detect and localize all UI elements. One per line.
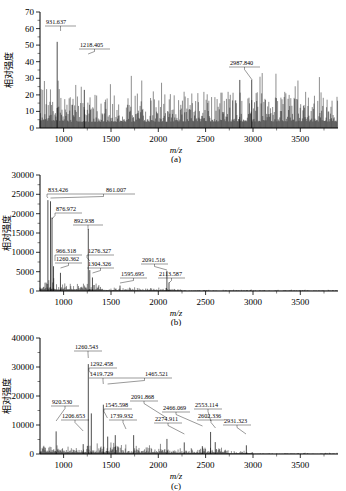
peak-label: 1260.362	[56, 255, 79, 262]
y-tick-label: 30000	[12, 362, 35, 372]
peak-label: 1419.729	[90, 370, 113, 377]
spectrum-trace-a	[40, 42, 338, 128]
peak-label: 1595.695	[121, 270, 144, 277]
spectrum-trace-b	[40, 200, 338, 291]
x-tick-label: 2500	[197, 134, 216, 144]
panel-caption-a: (a)	[171, 154, 181, 163]
peak-label: 1260.543	[75, 343, 98, 350]
x-tick-label: 2500	[197, 297, 216, 307]
y-axis-title-c: 相对强度	[1, 378, 12, 414]
spectrum-trace-c	[40, 364, 338, 454]
y-tick-label: 30	[25, 73, 35, 83]
peak-label: 1292.458	[90, 360, 113, 367]
y-tick-label: 20	[25, 90, 35, 100]
panel-a-plot: 0 10 20 30 40 50 60 70 相对强度	[0, 0, 346, 163]
peak-label: 1276.327	[88, 247, 111, 254]
peak-label: 2553.114	[195, 401, 218, 408]
peak-label: 966.318	[56, 247, 76, 254]
y-tick-label: 40	[25, 57, 35, 67]
y-tick-label: 10000	[12, 247, 35, 257]
x-tick-label: 2000	[149, 297, 168, 307]
peak-label: 892.938	[74, 217, 94, 224]
peak-label: 1739.932	[110, 412, 133, 419]
peak-label: 2091.516	[142, 256, 165, 263]
y-tick-label: 0	[30, 123, 35, 133]
y-tick-label: 10	[25, 106, 35, 116]
peak-label: 861.007	[106, 186, 126, 193]
x-tick-label: 1500	[102, 134, 121, 144]
x-tick-label: 3000	[244, 134, 263, 144]
x-tick-label: 1500	[102, 460, 121, 470]
peak-label: 2466.069	[163, 404, 186, 411]
x-tick-label: 1500	[102, 297, 121, 307]
peak-label: 2987.840	[230, 59, 253, 66]
x-tick-label: 3000	[244, 460, 263, 470]
peak-label: 1465.521	[145, 370, 168, 377]
x-tick-label: 2500	[197, 460, 216, 470]
y-tick-label: 70	[25, 7, 35, 17]
x-tick-label: 3500	[291, 460, 310, 470]
panel-b: 0 5000 10000 15000 20000 25000 30000 相对强…	[0, 163, 346, 326]
y-tick-label: 40000	[12, 333, 35, 343]
peak-label: 876.972	[56, 205, 76, 212]
y-axis-title-a: 相对强度	[3, 52, 14, 88]
peak-label: 2113.587	[159, 270, 182, 277]
y-tick-label: 25000	[12, 189, 35, 199]
y-tick-label: 0	[30, 449, 35, 459]
x-tick-label: 3500	[291, 134, 310, 144]
peak-label: 2274.911	[155, 415, 178, 422]
peak-label: 1206.653	[62, 412, 85, 419]
y-tick-label: 20000	[12, 209, 35, 219]
panel-c: 0 10000 20000 30000 40000 相对强度	[0, 326, 346, 491]
y-tick-label: 5000	[16, 267, 35, 277]
x-tick-label: 3500	[291, 297, 310, 307]
peak-label: 920.530	[52, 398, 72, 405]
y-ticks-c	[36, 338, 40, 454]
peak-label: 833.426	[48, 186, 68, 193]
y-tick-label: 20000	[12, 391, 35, 401]
y-tick-label: 50	[25, 40, 35, 50]
peak-annotations-b: 833.426861.007876.972892.938966.3181260.…	[47, 186, 185, 283]
peak-annotations-c: 920.5301206.6531260.5431292.4581419.7291…	[51, 343, 251, 434]
y-tick-label: 10000	[12, 420, 35, 430]
x-tick-label: 2000	[149, 134, 168, 144]
y-axis-title-b: 相对强度	[1, 215, 12, 251]
x-tick-label: 1000	[55, 134, 74, 144]
y-tick-label: 15000	[12, 228, 35, 238]
peak-label: 2091.868	[131, 393, 154, 400]
y-tick-label: 0	[30, 286, 35, 296]
x-tick-label: 1000	[55, 297, 74, 307]
peak-label: 2602.336	[198, 412, 221, 419]
x-tick-label: 3000	[244, 297, 263, 307]
peak-label: 1545.598	[105, 401, 128, 408]
peak-label: 1304.326	[88, 260, 111, 267]
x-axis-title-c: m/z	[170, 471, 183, 481]
y-tick-label: 30000	[12, 170, 35, 180]
x-tick-label: 2000	[149, 460, 168, 470]
panel-b-plot: 0 5000 10000 15000 20000 25000 30000 相对强…	[0, 163, 346, 326]
peak-label: 931.637	[46, 18, 66, 25]
peak-label: 2931.323	[224, 417, 247, 424]
y-tick-label: 60	[25, 24, 35, 34]
panel-c-plot: 0 10000 20000 30000 40000 相对强度	[0, 326, 346, 491]
y-ticks-b	[36, 175, 40, 291]
peak-label: 1218.405	[80, 41, 103, 48]
panel-a: 0 10 20 30 40 50 60 70 相对强度	[0, 0, 346, 163]
panel-caption-b: (b)	[171, 317, 182, 326]
panel-caption-c: (c)	[171, 481, 181, 491]
x-tick-label: 1000	[55, 460, 74, 470]
peak-annotations-a: 931.6371218.4052987.840	[45, 18, 260, 80]
figure-mass-spectra: 0 10 20 30 40 50 60 70 相对强度	[0, 0, 346, 491]
